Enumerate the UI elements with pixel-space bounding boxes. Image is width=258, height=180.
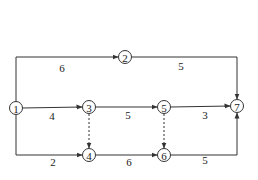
svg-text:1: 1 bbox=[13, 103, 19, 115]
edge-1-3 bbox=[22, 107, 82, 108]
edge-2-7 bbox=[132, 57, 237, 99]
duration-label-3-5: 5 bbox=[125, 109, 131, 121]
node-1: 1 bbox=[10, 102, 23, 115]
node-7: 7 bbox=[231, 100, 244, 113]
edge-5-7 bbox=[171, 106, 230, 107]
duration-label-1-4: 2 bbox=[50, 156, 56, 168]
duration-label-2-7: 5 bbox=[178, 60, 184, 72]
node-6: 6 bbox=[158, 149, 171, 162]
duration-label-6-7: 5 bbox=[202, 154, 208, 166]
edge-1-2 bbox=[16, 57, 118, 102]
duration-label-1-3: 4 bbox=[49, 110, 55, 122]
duration-label-1-2: 6 bbox=[59, 62, 65, 74]
duration-label-4-6: 6 bbox=[126, 156, 132, 168]
node-2: 2 bbox=[119, 51, 132, 64]
node-5: 5 bbox=[158, 101, 171, 114]
svg-text:2: 2 bbox=[122, 52, 128, 64]
node-3: 3 bbox=[83, 101, 96, 114]
network-diagram: 6 5 4 5 3 2 6 5 1 2 3 4 5 6 7 bbox=[0, 0, 258, 180]
svg-text:4: 4 bbox=[86, 150, 92, 162]
node-4: 4 bbox=[83, 149, 96, 162]
duration-label-5-7: 3 bbox=[202, 109, 208, 121]
svg-text:7: 7 bbox=[234, 101, 240, 113]
svg-text:6: 6 bbox=[161, 150, 167, 162]
svg-text:3: 3 bbox=[86, 102, 92, 114]
svg-text:5: 5 bbox=[161, 102, 167, 114]
